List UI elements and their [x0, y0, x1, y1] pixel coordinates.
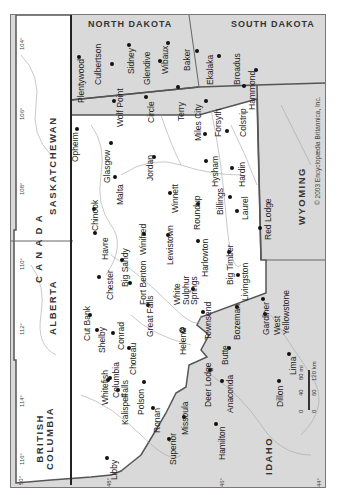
city-dot-malta	[113, 175, 117, 179]
city-label-bozeman: Bozeman	[233, 304, 242, 340]
parallel-46: 46°	[219, 478, 225, 487]
scale-km-120: 120 km	[311, 361, 317, 381]
city-label-dillon: Dillon	[276, 386, 285, 407]
city-label-malta: Malta	[116, 184, 125, 205]
city-dot-circle	[144, 95, 148, 99]
meridian-116: 116°	[19, 453, 25, 465]
city-label-glasgow: Glasgow	[103, 150, 112, 183]
city-label-ekalaka: Ekalaka	[206, 55, 215, 85]
city-label-hamilton: Hamilton	[218, 426, 227, 460]
scale-mi-0: 0	[298, 410, 304, 413]
city-label-big-timber: Big Timber	[226, 244, 235, 285]
city-label-harlowton: Harlowton	[201, 239, 210, 277]
city-label-hardin: Hardin	[238, 162, 247, 187]
city-dot-ekalaka	[217, 54, 221, 58]
city-label-cut-bank: Cut Bank	[83, 306, 92, 341]
city-dot-red-lodge	[258, 226, 262, 230]
copyright-notice: © 2003 Encyclopædia Britannica, Inc.	[315, 97, 322, 206]
city-dot-baker	[195, 49, 199, 53]
city-label-hysham: Hysham	[211, 156, 220, 187]
city-label-jordan: Jordan	[146, 155, 155, 181]
city-dot-gardiner	[261, 297, 265, 301]
region-label-alberta: ALBERTA	[48, 280, 58, 335]
city-label-wibaux: Wibaux	[161, 46, 170, 74]
meridian-108: 108°	[19, 183, 25, 195]
city-label-choteau: Choteau	[129, 343, 138, 375]
city-label-colstrip: Colstrip	[239, 108, 248, 137]
city-label-missoula: Missoula	[181, 401, 190, 435]
region-label-idaho: IDAHO	[264, 437, 274, 475]
city-label-winnett: Winnett	[171, 184, 180, 213]
city-label-livingston: Livingston	[241, 263, 250, 301]
parallel-50: 50°	[18, 476, 24, 485]
city-label-helena: Helena	[179, 328, 188, 355]
city-label-roundup: Roundup	[193, 195, 202, 230]
scale-km-0: 0	[311, 410, 317, 413]
city-dot-anaconda	[220, 379, 224, 383]
city-label-billings: Billings	[216, 188, 225, 215]
city-dot-billings	[228, 195, 232, 199]
city-label-glendive: Glendive	[143, 51, 152, 85]
city-label-butte: Butte	[221, 345, 230, 365]
city-label-forsyth: Forsyth	[214, 109, 223, 137]
city-label-chinook: Chinook	[91, 200, 100, 231]
city-label-columbia-falls: Columbia Falls	[112, 358, 129, 398]
city-label-winifred: Winifred	[139, 224, 148, 255]
city-dot-laurel	[235, 209, 239, 213]
city-label-superior: Superior	[169, 433, 178, 465]
city-label-terry: Terry	[177, 102, 186, 121]
city-label-miles-city: Miles City	[194, 104, 203, 141]
city-label-broadus: Broadus	[233, 53, 242, 85]
city-label-conrad: Conrad	[117, 322, 126, 350]
city-label-hammond: Hammond	[248, 71, 257, 110]
city-dot-lima	[287, 352, 291, 356]
city-dot-chester	[97, 275, 101, 279]
city-label-baker: Baker	[183, 49, 192, 71]
city-label-chester: Chester	[106, 270, 115, 300]
meridian-110: 110°	[19, 258, 25, 270]
city-label-ronan: Ronan	[153, 408, 162, 433]
city-label-west-yellowstone: West Yellowstone	[273, 290, 290, 335]
city-label-anaconda: Anaconda	[226, 375, 235, 413]
city-label-culbertson: Culbertson	[94, 44, 103, 85]
city-label-big-sandy: Big Sandy	[121, 248, 130, 287]
city-label-plentywood: Plentywood	[77, 59, 86, 103]
region-label-wyoming: WYOMING	[297, 167, 307, 225]
city-dot-havre	[93, 231, 97, 235]
region-label-south-dakota: SOUTH DAKOTA	[231, 20, 315, 29]
city-label-shelby: Shelby	[98, 327, 107, 353]
scale-bar	[308, 370, 310, 410]
region-label-north-dakota: NORTH DAKOTA	[88, 20, 172, 29]
city-label-kalispell: Kalispell	[121, 393, 130, 425]
city-label-libby: Libby	[110, 460, 119, 480]
city-label-opheim: Opheim	[71, 132, 80, 162]
page-header	[248, 0, 338, 8]
region-label-saskatchewan: SASKATCHEWAN	[48, 116, 58, 215]
city-label-great-falls: Great Falls	[146, 295, 155, 337]
city-dot-opheim	[75, 127, 79, 131]
city-dot-conrad	[111, 331, 115, 335]
city-dot-terry	[176, 85, 180, 89]
meridian-114: 114°	[19, 395, 25, 407]
scale-km-60: 60	[311, 389, 317, 396]
montana-map: NORTH DAKOTA SOUTH DAKOTA WYOMING IDAHO …	[10, 14, 326, 488]
meridian-112: 112°	[19, 323, 25, 335]
city-label-whitefish: Whitefish	[101, 370, 110, 405]
city-label-gardiner: Gardiner	[262, 302, 271, 335]
city-dot-polson	[142, 380, 146, 384]
city-dot-miles-city	[204, 99, 208, 103]
city-dot-broadus	[242, 84, 246, 88]
city-label-lima: Lima	[289, 357, 298, 375]
city-dot-hysham	[204, 159, 208, 163]
city-dot-glasgow	[109, 141, 113, 145]
city-dot-sidney	[127, 43, 131, 47]
city-dot-wibaux	[166, 41, 170, 45]
meridian-106: 106°	[19, 108, 25, 120]
city-label-sidney: Sidney	[127, 48, 136, 74]
city-label-circle: Circle	[147, 101, 156, 123]
city-label-deer-lodge: Deer Lodge	[204, 363, 213, 407]
parallel-44: 44°	[316, 478, 322, 487]
city-dot-colstrip	[225, 129, 229, 133]
scale-mi-40: 40	[298, 389, 304, 396]
city-label-red-lodge: Red Lodge	[264, 198, 273, 240]
